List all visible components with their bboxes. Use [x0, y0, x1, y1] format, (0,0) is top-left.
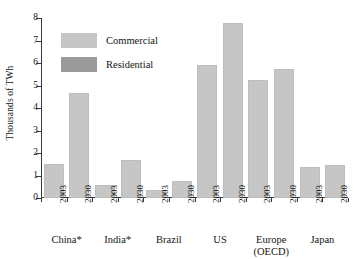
x-axis-year-label: 2003 [48, 203, 60, 237]
legend-label-residential: Residential [106, 59, 153, 70]
y-tick-label: 4 [33, 102, 38, 113]
year-label-text: 2003 [160, 185, 170, 203]
year-label-text: 2003 [262, 185, 272, 203]
year-label-text: 2003 [314, 185, 324, 203]
legend-item-residential: Residential [61, 54, 158, 74]
legend-swatch-commercial [61, 33, 97, 48]
x-axis-year-label: 2003 [201, 203, 213, 237]
legend-item-commercial: Commercial [61, 30, 158, 50]
y-tick-label: 3 [33, 125, 38, 136]
chart-figure: Thousands of TWh 012345678 2003203020032… [0, 0, 357, 259]
x-axis-group-label: Japan [282, 234, 357, 246]
bar [248, 80, 268, 198]
x-axis-year-label: 2003 [252, 203, 264, 237]
y-axis-title-container: Thousands of TWh [0, 0, 20, 205]
year-label-text: 2030 [288, 185, 298, 203]
x-axis-year-label: 2030 [73, 203, 85, 237]
year-label-text: 2003 [58, 185, 68, 203]
bar [274, 69, 294, 198]
x-axis-year-label: 2030 [227, 203, 239, 237]
chart-legend: Commercial Residential [61, 30, 158, 78]
year-label-text: 2030 [186, 185, 196, 203]
y-tick-label: 7 [33, 35, 38, 46]
y-tick-label: 0 [33, 192, 38, 203]
x-axis-year-label: 2030 [125, 203, 137, 237]
legend-label-commercial: Commercial [106, 35, 158, 46]
bar [223, 23, 243, 199]
y-tick-label: 6 [33, 57, 38, 68]
x-axis-year-label: 2030 [329, 203, 341, 237]
year-label-text: 2030 [135, 185, 145, 203]
year-label-text: 2003 [211, 185, 221, 203]
group-label-line1: Japan [282, 234, 357, 246]
legend-swatch-residential [61, 57, 97, 72]
bar [69, 93, 89, 198]
x-axis-year-label: 2003 [99, 203, 111, 237]
y-axis-title: Thousands of TWh [5, 65, 15, 140]
y-tick-label: 2 [33, 147, 38, 158]
year-label-text: 2030 [339, 185, 349, 203]
year-label-text: 2030 [237, 185, 247, 203]
x-tick-mark [41, 198, 42, 202]
year-label-text: 2030 [83, 185, 93, 203]
x-axis-year-label: 2003 [304, 203, 316, 237]
y-axis-line [41, 18, 42, 198]
x-axis-year-label: 2030 [278, 203, 290, 237]
year-label-text: 2003 [109, 185, 119, 203]
x-axis-year-label: 2030 [176, 203, 188, 237]
y-tick-label: 8 [33, 12, 38, 23]
y-tick-label: 5 [33, 80, 38, 91]
bar [197, 65, 217, 198]
group-label-line2: (OECD) [231, 246, 311, 258]
y-tick-label: 1 [33, 170, 38, 181]
x-axis-year-label: 2003 [150, 203, 162, 237]
